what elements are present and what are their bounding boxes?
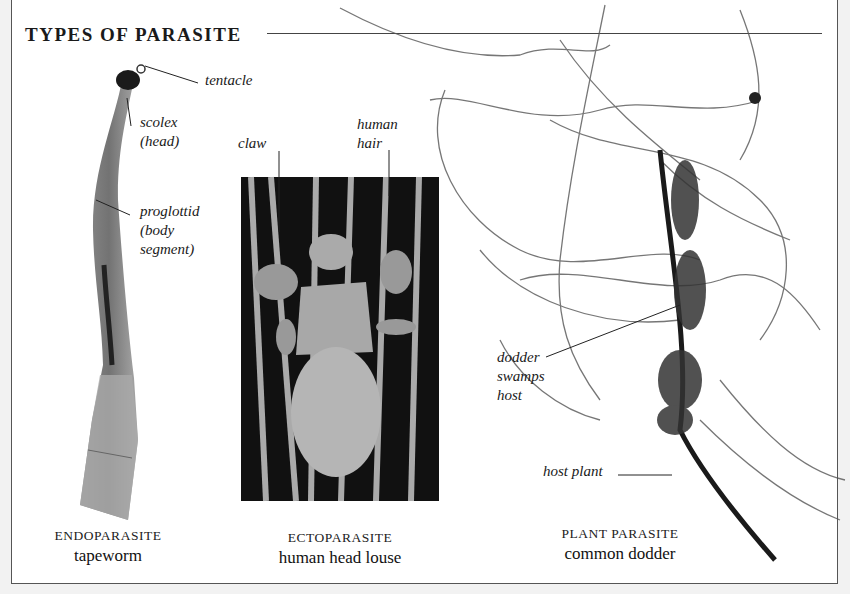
caption-category: ECTOPARASITE [245, 530, 435, 546]
label-claw: claw [238, 134, 266, 153]
label-human-hair: human hair [357, 115, 398, 153]
caption-ectoparasite: ECTOPARASITE human head louse [245, 530, 435, 568]
label-tentacle: tentacle [205, 71, 252, 90]
label-host-plant: host plant [543, 462, 603, 481]
caption-category: ENDOPARASITE [28, 528, 188, 544]
caption-name: common dodder [525, 544, 715, 564]
label-scolex: scolex (head) [140, 113, 179, 151]
caption-plant-parasite: PLANT PARASITE common dodder [525, 526, 715, 564]
label-proglottid: proglottid (body segment) [140, 202, 199, 259]
label-dodder-swamps-host: dodder swamps host [497, 348, 545, 405]
leader-lines [0, 0, 850, 594]
caption-name: tapeworm [28, 546, 188, 566]
caption-category: PLANT PARASITE [525, 526, 715, 542]
caption-endoparasite: ENDOPARASITE tapeworm [28, 528, 188, 566]
caption-name: human head louse [245, 548, 435, 568]
